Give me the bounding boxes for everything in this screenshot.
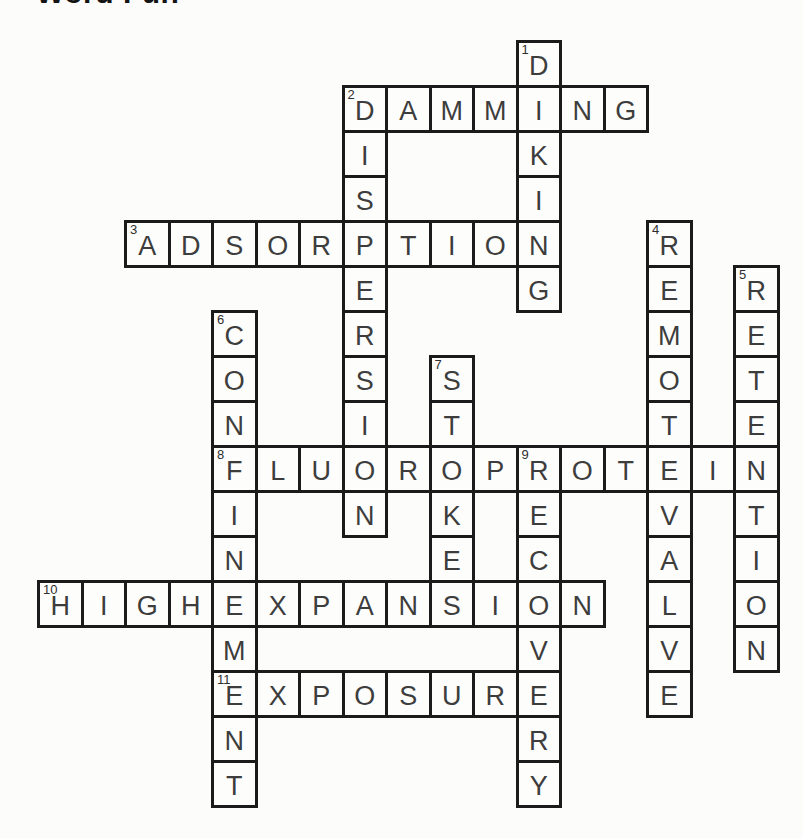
cell-letter: D xyxy=(355,98,375,130)
grid-cell-r14c4: 11E xyxy=(211,670,258,718)
cell-letter: T xyxy=(444,413,461,445)
grid-cell-r12c6: P xyxy=(298,580,345,628)
grid-cell-r6c14: M xyxy=(646,310,693,358)
grid-cell-r6c7: R xyxy=(342,310,389,358)
cell-letter: V xyxy=(530,638,548,670)
cell-letter: M xyxy=(484,98,507,130)
cell-letter: G xyxy=(528,278,549,310)
cell-letter: E xyxy=(225,593,243,625)
grid-cell-r14c9: U xyxy=(429,670,476,718)
cell-letter: S xyxy=(443,368,461,400)
cell-letter: P xyxy=(486,458,504,490)
cell-letter: I xyxy=(448,233,456,265)
grid-cell-r9c4: 8F xyxy=(211,445,258,493)
cell-letter: E xyxy=(530,683,548,715)
cell-letter: R xyxy=(399,458,419,490)
cell-letter: X xyxy=(269,593,287,625)
cell-letter: I xyxy=(361,143,369,175)
grid-cell-r9c16: N xyxy=(733,445,780,493)
cell-letter: T xyxy=(400,233,417,265)
cell-letter: G xyxy=(615,98,636,130)
cell-letter: R xyxy=(355,323,375,355)
cell-letter: K xyxy=(443,503,461,535)
cell-letter: U xyxy=(442,683,462,715)
grid-cell-r10c7: N xyxy=(342,490,389,538)
grid-cell-r9c12: O xyxy=(559,445,606,493)
cell-letter: U xyxy=(312,458,332,490)
cell-letter: E xyxy=(530,503,548,535)
grid-cell-r12c16: O xyxy=(733,580,780,628)
grid-cell-r6c4: 6C xyxy=(211,310,258,358)
cell-letter: M xyxy=(223,638,246,670)
grid-cell-r3c11: I xyxy=(516,175,563,223)
cell-letter: A xyxy=(660,548,678,580)
grid-cell-r1c13: G xyxy=(603,85,650,133)
cell-letter: O xyxy=(224,368,245,400)
grid-cell-r8c14: T xyxy=(646,400,693,448)
grid-cell-r7c14: O xyxy=(646,355,693,403)
grid-cell-r12c5: X xyxy=(255,580,302,628)
grid-cell-r6c16: E xyxy=(733,310,780,358)
cell-letter: X xyxy=(269,683,287,715)
grid-cell-r14c10: R xyxy=(472,670,519,718)
cell-letter: P xyxy=(312,683,330,715)
cell-letter: N xyxy=(225,728,245,760)
grid-cell-r4c5: O xyxy=(255,220,302,268)
grid-cell-r9c13: T xyxy=(603,445,650,493)
cell-letter: I xyxy=(709,458,717,490)
grid-cell-r13c11: V xyxy=(516,625,563,673)
grid-cell-r4c8: T xyxy=(385,220,432,268)
cell-letter: S xyxy=(356,188,374,220)
cell-letter: I xyxy=(535,98,543,130)
cell-letter: R xyxy=(529,458,549,490)
grid-cell-r4c9: I xyxy=(429,220,476,268)
cell-letter: S xyxy=(225,233,243,265)
cell-letter: I xyxy=(361,413,369,445)
grid-cell-r16c11: Y xyxy=(516,760,563,808)
grid-cell-r8c9: T xyxy=(429,400,476,448)
grid-cell-r11c11: C xyxy=(516,535,563,583)
cell-number: 7 xyxy=(435,358,442,372)
cell-letter: I xyxy=(491,593,499,625)
crossword-grid: 1D2DAMMINGIKSI3ADSORPTION4REGE5R6CRMEOS7… xyxy=(0,0,803,838)
grid-cell-r12c1: I xyxy=(81,580,128,628)
cell-letter: E xyxy=(225,683,243,715)
cell-letter: H xyxy=(51,593,71,625)
grid-cell-r14c14: E xyxy=(646,670,693,718)
worksheet-page: Word Fun 1D2DAMMINGIKSI3ADSORPTION4REGE5… xyxy=(0,0,803,838)
grid-cell-r8c4: N xyxy=(211,400,258,448)
grid-cell-r15c11: R xyxy=(516,715,563,763)
cell-letter: E xyxy=(747,323,765,355)
cell-letter: P xyxy=(356,233,374,265)
grid-cell-r7c9: 7S xyxy=(429,355,476,403)
cell-letter: O xyxy=(354,683,375,715)
grid-cell-r12c14: L xyxy=(646,580,693,628)
cell-letter: E xyxy=(660,278,678,310)
grid-cell-r10c11: E xyxy=(516,490,563,538)
cell-letter: E xyxy=(660,458,678,490)
grid-cell-r12c2: G xyxy=(124,580,171,628)
cell-letter: A xyxy=(138,233,156,265)
cell-letter: N xyxy=(399,593,419,625)
grid-cell-r13c16: N xyxy=(733,625,780,673)
cell-letter: S xyxy=(356,368,374,400)
cell-letter: H xyxy=(181,593,201,625)
cell-letter: S xyxy=(399,683,417,715)
grid-cell-r11c16: I xyxy=(733,535,780,583)
cell-letter: O xyxy=(267,233,288,265)
grid-cell-r5c14: E xyxy=(646,265,693,313)
cell-letter: T xyxy=(748,368,765,400)
grid-cell-r16c4: T xyxy=(211,760,258,808)
grid-cell-r9c7: O xyxy=(342,445,389,493)
cell-number: 4 xyxy=(652,223,659,237)
grid-cell-r8c16: E xyxy=(733,400,780,448)
grid-cell-r9c14: E xyxy=(646,445,693,493)
grid-cell-r4c3: D xyxy=(168,220,215,268)
grid-cell-r7c4: O xyxy=(211,355,258,403)
grid-cell-r5c16: 5R xyxy=(733,265,780,313)
grid-cell-r10c4: I xyxy=(211,490,258,538)
cell-letter: R xyxy=(312,233,332,265)
grid-cell-r12c10: I xyxy=(472,580,519,628)
cell-letter: P xyxy=(312,593,330,625)
cell-letter: T xyxy=(748,503,765,535)
